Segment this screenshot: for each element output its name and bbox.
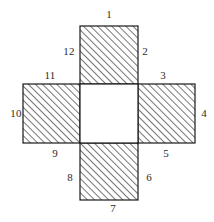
bottom-square (80, 143, 138, 200)
edge-label-4: 4 (201, 108, 207, 119)
edge-label-10: 10 (10, 108, 21, 119)
top-square (80, 26, 138, 84)
cross-net-diagram (0, 0, 214, 222)
edge-label-7: 7 (110, 203, 116, 214)
edge-label-8: 8 (67, 172, 73, 183)
edge-label-5: 5 (163, 148, 169, 159)
left-square (23, 84, 80, 143)
right-square (138, 84, 195, 143)
edge-label-9: 9 (52, 148, 58, 159)
edge-label-2: 2 (142, 46, 148, 57)
edge-label-6: 6 (146, 172, 152, 183)
center-square (80, 84, 138, 143)
edge-label-12: 12 (63, 46, 74, 57)
cross-net-figure: 1 2 3 4 5 6 7 8 9 10 11 12 (0, 0, 214, 222)
edge-label-1: 1 (106, 9, 112, 20)
edge-label-3: 3 (160, 70, 166, 81)
edge-label-11: 11 (45, 70, 56, 81)
